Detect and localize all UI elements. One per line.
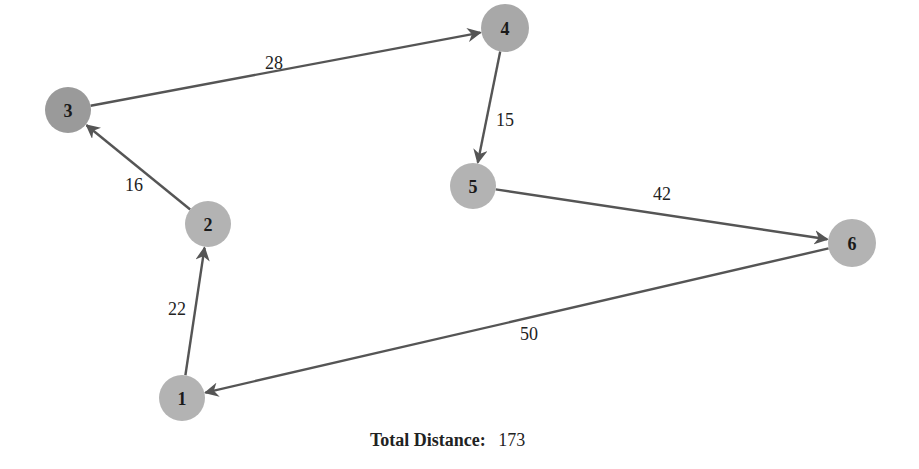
edge-2-to-3 [87, 125, 191, 209]
node-label: 5 [469, 177, 478, 197]
node-label: 4 [501, 19, 510, 39]
edge-weight-label: 50 [520, 324, 538, 344]
node-4: 4 [481, 4, 529, 52]
edge-6-to-1 [205, 248, 828, 392]
nodes-layer: 123456 [45, 4, 876, 421]
edge-weight-label: 22 [168, 299, 186, 319]
total-distance-value: 173 [498, 430, 525, 450]
edge-labels-layer: 221628154250 [125, 53, 671, 344]
route-graph: 123456 221628154250 [0, 0, 919, 469]
edge-weight-label: 28 [265, 53, 283, 73]
edge-weight-label: 15 [496, 110, 514, 130]
node-2: 2 [185, 201, 231, 247]
edge-4-to-5 [478, 52, 500, 163]
node-1: 1 [159, 375, 205, 421]
edge-weight-label: 42 [653, 184, 671, 204]
node-label: 2 [204, 215, 213, 235]
node-label: 1 [178, 389, 187, 409]
edge-1-to-2 [185, 248, 204, 376]
node-6: 6 [828, 219, 876, 267]
total-distance-label: Total Distance: [370, 430, 486, 450]
total-distance: Total Distance: 173 [370, 430, 525, 451]
edge-3-to-4 [91, 33, 481, 106]
node-label: 3 [64, 101, 73, 121]
node-5: 5 [450, 163, 496, 209]
node-label: 6 [848, 234, 857, 254]
edge-weight-label: 16 [125, 175, 143, 195]
node-3: 3 [45, 87, 91, 133]
